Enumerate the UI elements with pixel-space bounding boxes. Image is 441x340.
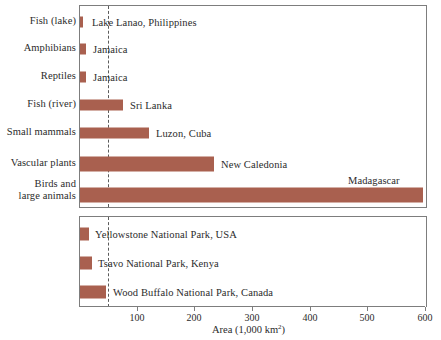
bar-point-label-yellowstone: Yellowstone National Park, USA: [95, 229, 237, 240]
bar-point-label-luzon-cuba: Luzon, Cuba: [156, 128, 211, 139]
bar-small-mammals: [80, 128, 149, 139]
bar-amphibians: [80, 44, 86, 55]
x-axis-title-close: ): [282, 324, 286, 335]
category-label-column: Fish (lake) Amphibians Reptiles Fish (ri…: [0, 0, 76, 340]
x-tick-600: [425, 307, 426, 311]
x-tick-200: [194, 307, 195, 311]
species-area-panel: Lake Lanao, Philippines Jamaica Jamaica …: [79, 5, 427, 208]
category-label-birds-large-animals: Birds and large animals: [0, 178, 76, 201]
category-label-reptiles: Reptiles: [0, 70, 76, 82]
x-axis: 100 200 300 400 500 600: [79, 306, 425, 307]
x-axis-title: Area (1,000 km2): [0, 322, 441, 335]
bar-point-label-new-caledonia: New Caledonia: [221, 159, 287, 170]
x-tick-100: [137, 307, 138, 311]
category-label-fish-river: Fish (river): [0, 98, 76, 110]
bar-point-label-jamaica-amphibians: Jamaica: [93, 44, 128, 55]
bar-wood-buffalo: [80, 286, 106, 299]
bar-fish-lake: [80, 17, 83, 28]
bar-point-label-lake-lanao: Lake Lanao, Philippines: [92, 17, 197, 28]
national-parks-panel: Yellowstone National Park, USA Tsavo Nat…: [79, 216, 427, 307]
bar-yellowstone: [80, 228, 89, 241]
category-label-small-mammals: Small mammals: [0, 126, 76, 138]
x-tick-400: [310, 307, 311, 311]
bar-point-label-wood-buffalo: Wood Buffalo National Park, Canada: [113, 287, 273, 298]
x-axis-title-main: Area (1,000 km: [212, 324, 278, 335]
bar-point-label-madagascar: Madagascar: [348, 175, 400, 186]
x-tick-300: [252, 307, 253, 311]
category-label-vascular-plants: Vascular plants: [0, 157, 76, 169]
category-label-amphibians: Amphibians: [0, 42, 76, 54]
bar-point-label-sri-lanka: Sri Lanka: [130, 100, 172, 111]
x-tick-500: [367, 307, 368, 311]
bar-point-label-jamaica-reptiles: Jamaica: [93, 72, 128, 83]
bar-vascular-plants: [80, 157, 214, 172]
bar-reptiles: [80, 72, 86, 83]
bar-tsavo: [80, 257, 92, 270]
bar-birds-large-animals: [80, 188, 423, 203]
category-label-fish-lake: Fish (lake): [0, 15, 76, 27]
chart-figure: Fish (lake) Amphibians Reptiles Fish (ri…: [0, 0, 441, 340]
bar-point-label-tsavo: Tsavo National Park, Kenya: [98, 258, 219, 269]
bar-fish-river: [80, 100, 123, 111]
